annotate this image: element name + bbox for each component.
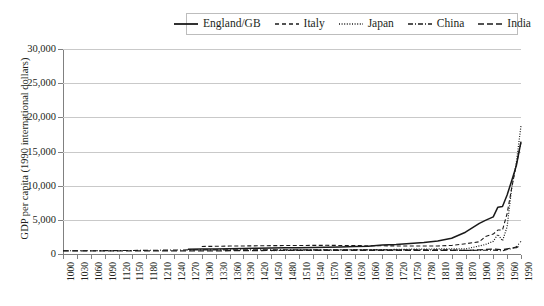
x-tick-mark — [257, 255, 258, 259]
x-tick-label: 1570 — [331, 262, 341, 281]
x-tick-mark — [410, 255, 411, 259]
legend-key-dashed-long-icon — [477, 19, 503, 29]
x-tick-mark — [230, 255, 231, 259]
x-tick-label: 1540 — [317, 262, 327, 281]
x-tick-mark — [466, 255, 467, 259]
x-tick-label: 1780 — [428, 262, 438, 281]
x-tick-mark — [174, 255, 175, 259]
x-tick-mark — [396, 255, 397, 259]
legend-label-india: India — [507, 18, 531, 30]
x-tick-label: 1180 — [150, 262, 160, 281]
x-tick-label: 1330 — [220, 262, 230, 281]
x-tick-mark — [368, 255, 369, 259]
x-tick-label: 1630 — [358, 262, 368, 281]
chart-legend: England/GB Italy Japan China India — [186, 13, 518, 35]
y-tick-label: 0 — [6, 249, 56, 260]
x-tick-mark — [160, 255, 161, 259]
x-tick-mark — [452, 255, 453, 259]
legend-label-england-gb: England/GB — [203, 18, 261, 30]
legend-item-england-gb: England/GB — [173, 18, 261, 30]
x-tick-label: 1210 — [164, 262, 174, 281]
x-tick-mark — [313, 255, 314, 259]
x-tick-label: 1900 — [483, 262, 493, 281]
series-line-china — [63, 241, 521, 251]
series-lines — [63, 49, 521, 254]
series-line-england-gb — [188, 142, 521, 249]
y-tick-mark — [58, 83, 63, 84]
legend-label-china: China — [437, 18, 464, 30]
legend-key-dashed-icon — [274, 19, 300, 29]
y-tick-mark — [58, 186, 63, 187]
x-tick-mark — [507, 255, 508, 259]
x-tick-label: 1990 — [525, 262, 535, 281]
legend-label-italy: Italy — [304, 18, 325, 30]
y-tick-label: 20,000 — [6, 112, 56, 123]
x-tick-label: 1150 — [136, 262, 146, 281]
x-tick-mark — [146, 255, 147, 259]
x-tick-mark — [216, 255, 217, 259]
x-tick-label: 1420 — [261, 262, 271, 281]
x-tick-mark — [188, 255, 189, 259]
x-tick-mark — [119, 255, 120, 259]
x-tick-mark — [493, 255, 494, 259]
x-tick-label: 1060 — [95, 262, 105, 281]
x-tick-label: 1750 — [414, 262, 424, 281]
legend-item-japan: Japan — [338, 18, 394, 30]
x-tick-label: 1000 — [67, 262, 77, 281]
x-tick-label: 1840 — [456, 262, 466, 281]
series-line-italy — [202, 142, 521, 246]
legend-item-india: India — [477, 18, 531, 30]
legend-key-dotted-icon — [338, 19, 364, 29]
y-tick-label: 10,000 — [6, 181, 56, 192]
x-tick-mark — [424, 255, 425, 259]
x-tick-mark — [243, 255, 244, 259]
x-tick-label: 1720 — [400, 262, 410, 281]
x-tick-label: 1870 — [469, 262, 479, 281]
x-tick-mark — [105, 255, 106, 259]
y-tick-mark — [58, 117, 63, 118]
x-tick-mark — [132, 255, 133, 259]
legend-item-china: China — [407, 18, 464, 30]
x-tick-mark — [91, 255, 92, 259]
x-tick-mark — [299, 255, 300, 259]
x-tick-mark — [271, 255, 272, 259]
y-tick-label: 30,000 — [6, 44, 56, 55]
y-tick-mark — [58, 220, 63, 221]
y-tick-label: 25,000 — [6, 78, 56, 89]
x-tick-mark — [479, 255, 480, 259]
x-tick-mark — [521, 255, 522, 259]
legend-label-japan: Japan — [368, 18, 394, 30]
x-tick-mark — [63, 255, 64, 259]
x-tick-mark — [382, 255, 383, 259]
x-tick-label: 1090 — [109, 262, 119, 281]
x-tick-label: 1240 — [178, 262, 188, 281]
legend-item-italy: Italy — [274, 18, 325, 30]
x-tick-label: 1270 — [192, 262, 202, 281]
x-tick-label: 1120 — [123, 262, 133, 281]
x-tick-label: 1390 — [247, 262, 257, 281]
x-tick-label: 1930 — [497, 262, 507, 281]
x-tick-label: 1450 — [275, 262, 285, 281]
x-tick-label: 1030 — [81, 262, 91, 281]
x-tick-label: 1660 — [372, 262, 382, 281]
y-tick-label: 5,000 — [6, 215, 56, 226]
legend-key-dash-dot-icon — [407, 19, 433, 29]
y-tick-mark — [58, 152, 63, 153]
x-tick-label: 1690 — [386, 262, 396, 281]
x-tick-mark — [327, 255, 328, 259]
x-tick-label: 1300 — [206, 262, 216, 281]
x-tick-label: 1510 — [303, 262, 313, 281]
y-tick-mark — [58, 49, 63, 50]
x-tick-label: 1810 — [442, 262, 452, 281]
series-line-japan — [271, 126, 521, 251]
y-tick-label: 15,000 — [6, 147, 56, 158]
x-tick-mark — [355, 255, 356, 259]
x-tick-mark — [438, 255, 439, 259]
x-tick-label: 1600 — [345, 262, 355, 281]
x-tick-mark — [341, 255, 342, 259]
plot-area — [63, 49, 521, 254]
chart-figure: England/GB Italy Japan China India — [0, 0, 544, 306]
x-tick-label: 1480 — [289, 262, 299, 281]
x-tick-label: 1960 — [511, 262, 521, 281]
x-tick-label: 1360 — [234, 262, 244, 281]
